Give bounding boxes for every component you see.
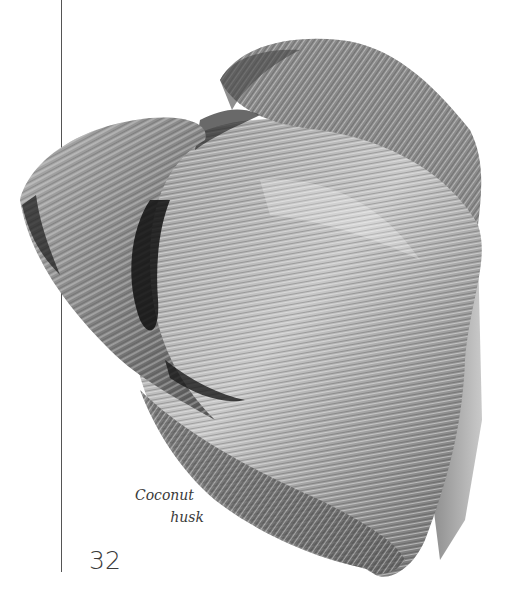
caption-line-2: husk (118, 506, 204, 528)
photo-caption: Coconut husk (118, 484, 204, 528)
coconut-husk-photo (0, 0, 532, 613)
caption-line-1: Coconut (118, 484, 204, 506)
page-number: 32 (89, 546, 121, 576)
book-page: Coconut husk 32 (0, 0, 532, 613)
